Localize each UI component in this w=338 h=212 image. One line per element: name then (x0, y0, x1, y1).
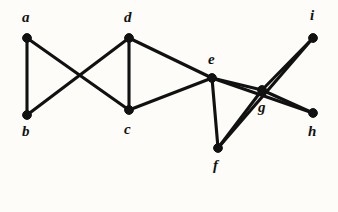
graph-edge-ce (129, 78, 212, 110)
vertex-label-g: g (258, 100, 266, 115)
graph-vertex-b (23, 111, 32, 120)
vertex-label-d: d (124, 10, 132, 25)
vertex-label-f: f (213, 158, 218, 173)
vertex-label-c: c (124, 122, 131, 137)
vertex-label-h: h (308, 124, 316, 139)
graph-canvas (0, 0, 338, 212)
vertex-label-i: i (310, 8, 314, 23)
graph-vertex-h (309, 109, 318, 118)
graph-figure: abcdefghi (0, 0, 338, 212)
edge-layer (27, 38, 313, 148)
graph-vertex-c (125, 106, 134, 115)
graph-edge-ef (212, 78, 218, 148)
graph-edge-gh (262, 90, 313, 113)
graph-vertex-a (23, 34, 32, 43)
vertex-label-a: a (22, 10, 30, 25)
vertex-label-e: e (208, 52, 215, 67)
graph-vertex-d (125, 34, 134, 43)
graph-vertex-i (309, 34, 318, 43)
graph-vertex-f (214, 144, 223, 153)
vertex-label-b: b (22, 124, 30, 139)
graph-vertex-g (258, 86, 267, 95)
graph-vertex-e (208, 74, 217, 83)
graph-edge-gi (262, 38, 313, 90)
graph-edge-de (129, 38, 212, 78)
